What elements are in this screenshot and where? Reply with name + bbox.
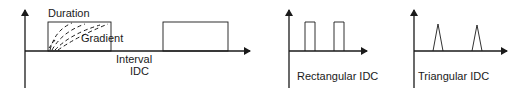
triangle-pulse-1 [433,24,443,51]
gradient-label: Gradient [81,32,123,44]
interval-label: Interval [116,53,152,65]
triangle-pulse-2 [472,25,482,51]
triangular-idc-panel: Triangular IDC [414,10,507,88]
triangular-idc-label: Triangular IDC [418,70,489,82]
duration-label: Duration [48,7,90,19]
idc-diagram: Duration Gradient Interval IDC Rectangul… [0,0,527,93]
interval-idc-panel: Duration Gradient Interval IDC [25,7,250,88]
second-pulse-rect [163,22,228,51]
idc-label: IDC [130,65,149,77]
rectangular-idc-label: Rectangular IDC [297,70,378,82]
rect-pulse-2 [334,22,344,51]
rect-pulse-1 [305,22,315,51]
rectangular-idc-panel: Rectangular IDC [289,10,378,88]
